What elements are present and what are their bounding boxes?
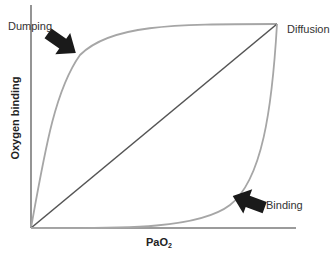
x-axis-label-subscript: 2 — [168, 242, 172, 249]
diffusion-label: Diffusion — [287, 23, 330, 35]
dumping-label: Dumping — [8, 20, 52, 32]
oxygen-binding-diagram — [0, 0, 336, 259]
x-axis-label: PaO2 — [146, 236, 172, 249]
binding-label: Binding — [266, 199, 303, 211]
y-axis-label: Oxygen binding — [9, 76, 21, 159]
x-axis-label-main: PaO — [146, 236, 168, 248]
